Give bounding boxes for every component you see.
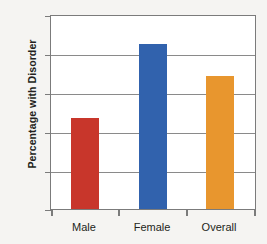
y-axis-title: Percentage with Disorder	[26, 14, 38, 194]
bar-male	[71, 118, 99, 209]
x-tick-label-overall: Overall	[202, 221, 237, 233]
bar-overall	[206, 76, 234, 209]
plot-area	[50, 15, 256, 210]
y-tick-25	[45, 16, 51, 17]
bar-chart-figure: Percentage with Disorder 25 20 15 10 5 0…	[0, 0, 267, 244]
x-tick-label-male: Male	[72, 221, 96, 233]
x-tick-2	[186, 209, 188, 216]
x-tick-left	[51, 209, 53, 216]
y-tick-5	[45, 172, 51, 173]
x-tick-label-female: Female	[134, 221, 171, 233]
y-tick-10	[45, 133, 51, 134]
bar-female	[139, 44, 167, 209]
y-tick-15	[45, 94, 51, 95]
x-tick-1	[118, 209, 120, 216]
y-tick-20	[45, 55, 51, 56]
x-tick-right	[254, 209, 256, 216]
x-axis-tick-labels: Male Female Overall	[50, 221, 256, 241]
